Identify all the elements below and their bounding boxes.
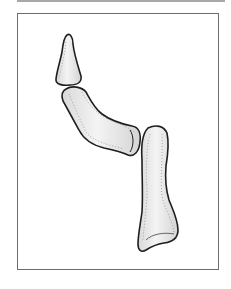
phalanges-illustration	[0, 0, 231, 289]
distal-phalanx	[56, 34, 81, 85]
proximal-phalanx	[138, 126, 178, 251]
middle-phalanx	[62, 87, 140, 156]
